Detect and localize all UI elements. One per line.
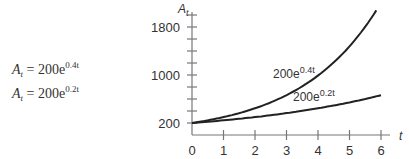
x-axis-label: t [399,129,403,143]
x-tick-label: 2 [251,143,258,158]
series-label-2: 200e0.2t [293,88,335,104]
series-label-1: 200e0.4t [273,65,315,81]
x-tick-label: 4 [314,143,321,158]
x-tick-label: 0 [188,143,195,158]
chart: 012345620010001800Att 200e0.4t200e0.2t [0,0,409,159]
y-axis-label: At [177,2,189,18]
x-tick-label: 5 [346,143,353,158]
x-tick-label: 1 [220,143,227,158]
y-tick-label: 1800 [151,20,180,35]
x-tick-label: 6 [377,143,384,158]
y-tick-label: 200 [158,116,180,131]
x-tick-label: 3 [283,143,290,158]
y-tick-label: 1000 [151,68,180,83]
